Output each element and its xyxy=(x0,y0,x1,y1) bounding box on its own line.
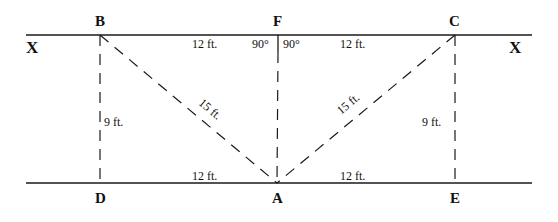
measure-ae: 12 ft. xyxy=(340,169,365,183)
angle-right-of-f: 90° xyxy=(283,37,300,51)
angle-left-of-f: 90° xyxy=(252,37,269,51)
line-label-x-right: X xyxy=(509,38,522,57)
point-label-d: D xyxy=(95,190,106,206)
segment-ba xyxy=(100,35,277,183)
measure-ce: 9 ft. xyxy=(422,115,441,129)
measure-fc: 12 ft. xyxy=(340,37,365,51)
segment-ca xyxy=(277,35,455,183)
measure-ba: 15 ft. xyxy=(196,96,224,123)
measure-bf: 12 ft. xyxy=(192,37,217,51)
measure-ca: 15 ft. xyxy=(334,90,362,117)
measure-bd: 9 ft. xyxy=(104,115,123,129)
point-label-f: F xyxy=(273,13,282,29)
point-label-a: A xyxy=(272,190,283,206)
measure-da: 12 ft. xyxy=(192,169,217,183)
geometry-diagram: B F C D A E X X 12 ft. 12 ft. 90° 90° 9 … xyxy=(0,0,558,222)
point-label-c: C xyxy=(449,13,460,29)
point-label-b: B xyxy=(95,13,105,29)
line-label-x-left: X xyxy=(26,38,39,57)
segment-fa xyxy=(277,52,278,183)
point-label-e: E xyxy=(450,190,460,206)
